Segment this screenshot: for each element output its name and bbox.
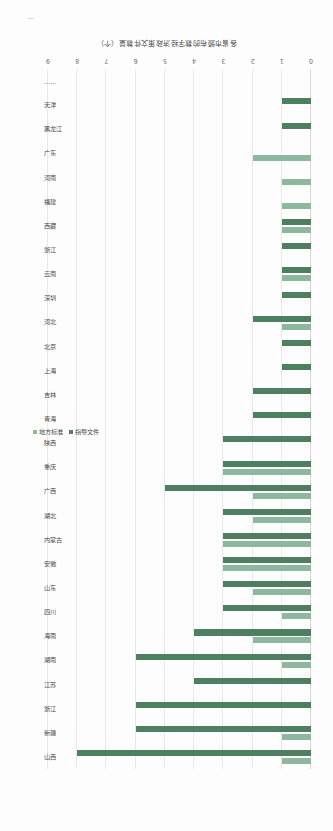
axis-tick-label: 7 <box>95 57 117 65</box>
category-label: 浙江 <box>44 704 84 713</box>
bar-group <box>48 286 311 310</box>
category-label: 西藏 <box>44 221 84 230</box>
plot-area <box>48 69 311 769</box>
bar <box>253 493 311 499</box>
legend-entry: 指导文件 <box>69 428 99 435</box>
bar-group <box>48 141 311 165</box>
legend-swatch <box>33 430 37 434</box>
bar <box>223 557 311 563</box>
category-label: 安徽 <box>44 559 84 568</box>
bar-group <box>48 745 311 769</box>
bar <box>282 203 311 209</box>
category-label: 天津 <box>44 100 84 109</box>
category-label: 上海 <box>44 366 84 375</box>
category-label: 重庆 <box>44 462 84 471</box>
bar <box>282 364 311 370</box>
category-label: 青海 <box>44 414 84 423</box>
bar <box>223 565 311 571</box>
bar-group <box>48 310 311 334</box>
axis-tick-label: 8 <box>66 57 88 65</box>
bar-group <box>48 600 311 624</box>
bar-group <box>48 624 311 648</box>
category-label: 河南 <box>44 173 84 182</box>
bar-group <box>48 117 311 141</box>
bar <box>165 485 311 491</box>
bar-group <box>48 648 311 672</box>
bar <box>253 517 311 523</box>
bar-group <box>48 190 311 214</box>
bar-group <box>48 93 311 117</box>
bar <box>282 267 311 273</box>
bar <box>282 123 311 129</box>
category-label: 江苏 <box>44 680 84 689</box>
bar <box>223 581 311 587</box>
category-label: 广东 <box>44 148 84 157</box>
bar-group <box>48 504 311 528</box>
bar-group <box>48 576 311 600</box>
bar <box>282 734 311 740</box>
bar <box>136 654 311 660</box>
legend-entry: 地方标准 <box>33 428 63 435</box>
legend-label: 地方标准 <box>39 428 63 435</box>
bar <box>253 589 311 595</box>
bar-group <box>48 479 311 503</box>
bar-group <box>48 262 311 286</box>
bar-group <box>48 214 311 238</box>
bar <box>282 98 311 104</box>
bar-group <box>48 672 311 696</box>
bar <box>282 275 311 281</box>
bar-group <box>48 359 311 383</box>
bar <box>223 436 311 442</box>
category-label: 云南 <box>44 269 84 278</box>
bar <box>282 292 311 298</box>
category-label: 吉林 <box>44 390 84 399</box>
axis-tick-label: 2 <box>242 57 264 65</box>
bar <box>136 702 311 708</box>
bar <box>194 630 311 636</box>
bar-group <box>48 335 311 359</box>
bar-group <box>48 721 311 745</box>
bar <box>223 509 311 515</box>
axis-tick-label: 3 <box>212 57 234 65</box>
category-label: 北京 <box>44 342 84 351</box>
bar-group <box>48 383 311 407</box>
bar-group <box>48 69 311 93</box>
chart-canvas: 0123456789 山西新疆浙江江苏湖南海南四川山东安徽内蒙古湖北广西重庆陕西… <box>0 0 333 831</box>
bar <box>282 243 311 249</box>
axis-tick-label: 0 <box>300 57 322 65</box>
bar <box>253 155 311 161</box>
category-label: 湖南 <box>44 655 84 664</box>
bar <box>282 340 311 346</box>
bar <box>223 469 311 475</box>
bar <box>282 179 311 185</box>
bar <box>253 412 311 418</box>
category-label: 海南 <box>44 631 84 640</box>
bar <box>136 726 311 732</box>
category-label: 广西 <box>44 486 84 495</box>
axis-tick-label: 1 <box>271 57 293 65</box>
category-label: 新疆 <box>44 728 84 737</box>
category-label: 四川 <box>44 607 84 616</box>
bar-group <box>48 166 311 190</box>
category-label: 湖北 <box>44 511 84 520</box>
category-label: 福建 <box>44 197 84 206</box>
bar <box>77 750 311 756</box>
bar <box>282 662 311 668</box>
legend-swatch <box>69 430 73 434</box>
bar <box>223 605 311 611</box>
bar <box>253 388 311 394</box>
bar <box>223 541 311 547</box>
category-label: 深圳 <box>44 293 84 302</box>
axis-tick-label: 9 <box>37 57 59 65</box>
axis-tick-label: 6 <box>125 57 147 65</box>
category-label: 陕西 <box>44 438 84 447</box>
bar <box>282 227 311 233</box>
bar <box>282 613 311 619</box>
chart-legend: 地方标准指导文件 <box>33 427 105 436</box>
bar <box>223 461 311 467</box>
category-label: 山东 <box>44 583 84 592</box>
bar-group <box>48 697 311 721</box>
bar <box>223 533 311 539</box>
category-label: 黑龙江 <box>44 124 84 133</box>
bar <box>282 219 311 225</box>
